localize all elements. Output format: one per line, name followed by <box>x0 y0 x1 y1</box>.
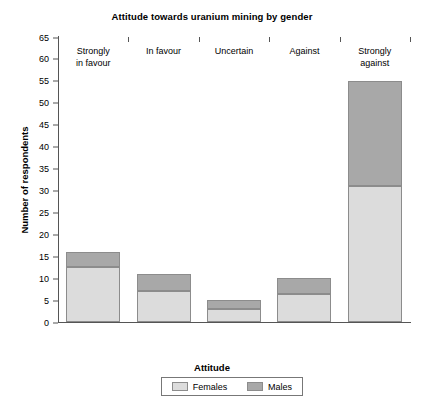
y-axis-title: Number of respondents <box>19 126 30 233</box>
bar-group[interactable] <box>66 252 120 322</box>
x-axis-line <box>58 322 411 323</box>
y-tick-label: 60 <box>39 54 49 64</box>
bar-segment-males[interactable] <box>66 252 120 267</box>
y-tick-label: 5 <box>44 296 49 306</box>
legend-item-females[interactable]: Females <box>172 382 228 392</box>
y-tick: 30 <box>0 190 58 191</box>
y-tick-label: 35 <box>39 164 49 174</box>
y-tick: 25 <box>0 212 58 213</box>
y-tick: 15 <box>0 256 58 257</box>
legend-swatch-icon <box>172 382 188 391</box>
legend-label: Males <box>268 382 292 392</box>
chart-title: Attitude towards uranium mining by gende… <box>0 11 424 22</box>
x-tick-mark <box>340 37 341 42</box>
y-tick-label: 65 <box>39 33 49 43</box>
y-tick: 45 <box>0 125 58 126</box>
y-tick: 40 <box>0 147 58 148</box>
x-tick-mark <box>199 37 200 42</box>
y-tick: 20 <box>0 234 58 235</box>
bar-segment-males[interactable] <box>207 300 261 309</box>
y-tick-label: 20 <box>39 230 49 240</box>
chart-legend: FemalesMales <box>161 377 303 396</box>
x-tick-mark <box>58 37 59 42</box>
y-tick-mark <box>53 322 58 323</box>
y-tick: 10 <box>0 278 58 279</box>
x-tick-mark <box>128 37 129 42</box>
y-tick: 65 <box>0 37 58 38</box>
y-tick: 55 <box>0 81 58 82</box>
y-tick-label: 0 <box>44 318 49 328</box>
x-axis-label: In favour <box>146 46 181 58</box>
bar-group[interactable] <box>207 300 261 322</box>
x-tick-mark <box>410 37 411 42</box>
bar-group[interactable] <box>348 81 402 322</box>
bar-segment-females[interactable] <box>348 186 402 322</box>
y-tick-label: 30 <box>39 186 49 196</box>
y-tick: 5 <box>0 300 58 301</box>
y-tick: 60 <box>0 59 58 60</box>
chart-container: Attitude towards uranium mining by gende… <box>0 0 424 396</box>
bar-segment-females[interactable] <box>277 294 331 323</box>
y-tick: 50 <box>0 103 58 104</box>
y-tick: 0 <box>0 322 58 323</box>
bar-group[interactable] <box>137 274 191 322</box>
y-tick-label: 10 <box>39 274 49 284</box>
legend-item-males[interactable]: Males <box>247 382 292 392</box>
bar-segment-males[interactable] <box>348 81 402 186</box>
x-axis-label: Uncertain <box>215 46 254 58</box>
y-tick-label: 50 <box>39 98 49 108</box>
x-axis-label: Against <box>289 46 319 58</box>
x-axis-title: Attitude <box>0 362 424 373</box>
legend-swatch-icon <box>247 382 263 391</box>
bar-group[interactable] <box>277 278 331 322</box>
bar-segment-females[interactable] <box>66 267 120 322</box>
bar-segment-males[interactable] <box>277 278 331 293</box>
y-tick-label: 45 <box>39 120 49 130</box>
x-tick-mark <box>269 37 270 42</box>
bars-layer <box>58 37 410 322</box>
y-tick-label: 25 <box>39 208 49 218</box>
bar-segment-females[interactable] <box>207 309 261 322</box>
x-axis-label: Stronglyin favour <box>76 46 111 69</box>
y-tick-label: 40 <box>39 142 49 152</box>
plot-area: Number of respondents 051015202530354045… <box>58 37 410 322</box>
y-tick: 35 <box>0 169 58 170</box>
x-axis-label: Stronglyagainst <box>358 46 391 69</box>
legend-label: Females <box>193 382 228 392</box>
y-tick-label: 55 <box>39 76 49 86</box>
bar-segment-females[interactable] <box>137 291 191 322</box>
bar-segment-males[interactable] <box>137 274 191 292</box>
y-tick-label: 15 <box>39 252 49 262</box>
